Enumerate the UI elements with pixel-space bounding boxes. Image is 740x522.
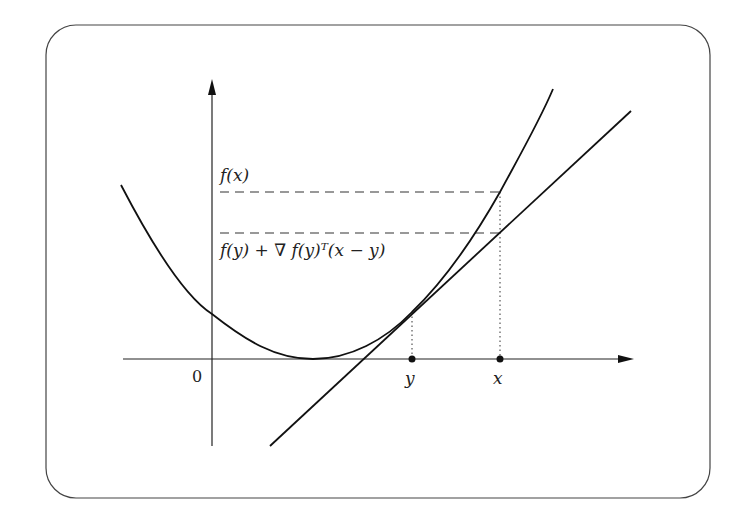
point-y-marker — [409, 356, 416, 363]
convexity-diagram: f(x) f(y) + ∇ f(y)ᵀ(x − y) 0 y x — [0, 0, 740, 522]
point-x-marker — [497, 356, 504, 363]
x-axis — [123, 355, 634, 363]
label-y: y — [404, 368, 415, 388]
tangent-line — [270, 111, 631, 446]
convex-function-curve — [121, 89, 553, 359]
frame-border — [46, 25, 710, 498]
label-origin: 0 — [192, 367, 202, 386]
y-axis — [208, 79, 216, 446]
label-tangent-value: f(y) + ∇ f(y)ᵀ(x − y) — [218, 240, 385, 260]
x-axis-arrow-icon — [618, 355, 634, 363]
label-x: x — [493, 368, 503, 388]
y-axis-arrow-icon — [208, 79, 216, 95]
label-fx: f(x) — [218, 165, 249, 185]
